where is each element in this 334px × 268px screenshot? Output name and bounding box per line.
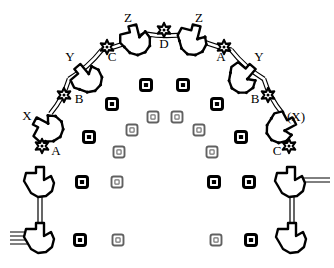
arch-assembly-diagram: ZZDCAYYBBX(X)AC <box>0 0 334 268</box>
label-y-right: Y <box>254 49 264 64</box>
label-b-right: B <box>251 91 260 106</box>
label-c-left: C <box>108 49 117 64</box>
label-z-right: Z <box>195 10 203 25</box>
label-b-left: B <box>75 91 84 106</box>
label-x-right: (X) <box>287 109 305 124</box>
figure-canvas: ZZDCAYYBBX(X)AC <box>0 0 334 268</box>
label-d: D <box>159 36 168 51</box>
label-c-right: C <box>273 143 282 158</box>
label-z-left: Z <box>124 10 132 25</box>
label-x-left: X <box>22 108 32 123</box>
label-y-left: Y <box>65 49 75 64</box>
label-a-top-right: A <box>216 49 226 64</box>
label-a-left: A <box>51 143 61 158</box>
